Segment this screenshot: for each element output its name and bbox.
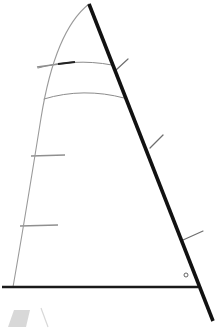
drawing-canvas: Sail Plan Outline Technical sail plan ou… bbox=[0, 0, 224, 329]
sail-plan-drawing bbox=[0, 0, 224, 329]
